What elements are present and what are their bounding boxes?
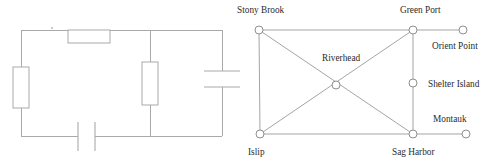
label-orient-point: Orient Point <box>432 41 478 51</box>
label-green-port: Green Port <box>400 5 441 15</box>
label-montauk: Montauk <box>433 114 467 124</box>
label-islip: Islip <box>248 147 265 157</box>
figure-canvas: Stony Brook Green Port Orient Point Rive… <box>0 0 497 163</box>
label-shelter-island: Shelter Island <box>428 79 480 89</box>
middle-resistor <box>142 62 158 105</box>
node-islip[interactable] <box>256 130 264 138</box>
node-sag-harbor[interactable] <box>409 130 417 138</box>
circuit-schematic-svg: Stony Brook Green Port Orient Point Rive… <box>0 0 497 163</box>
circuit-schematic <box>13 27 240 151</box>
node-riverhead[interactable] <box>332 81 340 89</box>
node-montauk[interactable] <box>462 130 470 138</box>
node-stony-brook[interactable] <box>255 26 263 34</box>
edge-stony-brook-islip <box>259 30 260 134</box>
label-stony-brook: Stony Brook <box>237 5 285 15</box>
label-riverhead: Riverhead <box>322 53 361 63</box>
node-green-port[interactable] <box>409 26 417 34</box>
top-resistor <box>68 30 110 43</box>
node-orient-point[interactable] <box>459 26 467 34</box>
node-shelter-island[interactable] <box>409 79 417 87</box>
top-wire-node-marker <box>51 27 53 29</box>
left-resistor <box>13 67 29 108</box>
network-map: Stony Brook Green Port Orient Point Rive… <box>237 5 480 157</box>
label-sag-harbor: Sag Harbor <box>392 147 436 157</box>
